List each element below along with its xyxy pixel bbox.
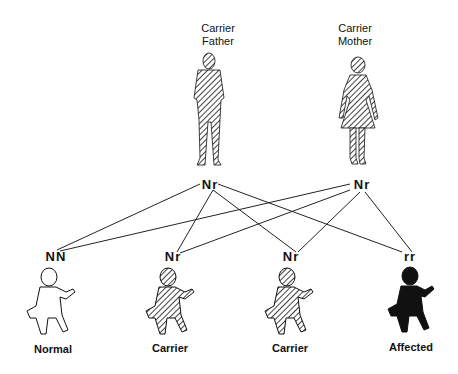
father-label-line2: Father bbox=[201, 35, 235, 48]
child-genotype: Nr bbox=[165, 249, 181, 264]
mother-figure-icon bbox=[339, 57, 378, 164]
child-caption: Affected bbox=[389, 341, 433, 353]
mother-label-line2: Mother bbox=[338, 35, 372, 48]
baby-carrier-icon bbox=[146, 268, 194, 334]
mother-label-line1: Carrier bbox=[338, 22, 372, 35]
father-genotype: Nr bbox=[202, 177, 218, 192]
child-genotype: rr bbox=[404, 249, 416, 264]
mother-label: Carrier Mother bbox=[338, 22, 372, 48]
baby-carrier-icon bbox=[265, 268, 313, 334]
child-genotype: Nr bbox=[283, 249, 299, 264]
child-genotype: NN bbox=[46, 249, 67, 264]
father-label-line1: Carrier bbox=[201, 22, 235, 35]
inheritance-lines bbox=[57, 184, 412, 253]
father-figure-icon bbox=[194, 53, 224, 165]
baby-normal-icon bbox=[27, 268, 75, 334]
father-label: Carrier Father bbox=[201, 22, 235, 48]
child-caption: Normal bbox=[34, 343, 72, 355]
mother-genotype: Nr bbox=[354, 177, 370, 192]
child-caption: Carrier bbox=[152, 342, 188, 354]
child-caption: Carrier bbox=[272, 342, 308, 354]
inheritance-diagram bbox=[0, 0, 458, 374]
baby-affected-icon bbox=[388, 267, 434, 332]
